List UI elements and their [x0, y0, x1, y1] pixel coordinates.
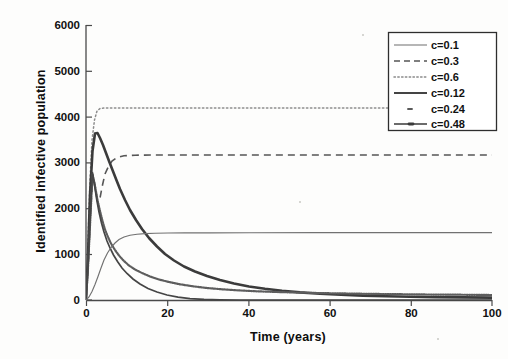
scan-speck — [362, 34, 364, 36]
legend-label-c-0-1: c=0.1 — [431, 39, 459, 51]
series-line-c-0-1 — [86, 233, 492, 300]
x-tick-100: 100 — [472, 307, 508, 319]
legend-label-c-0-6: c=0.6 — [431, 71, 459, 83]
y-axis-title: Identified infective population — [34, 36, 48, 286]
y-tick-5000: 5000 — [24, 65, 80, 77]
x-tick-60: 60 — [310, 307, 350, 319]
scan-speck — [437, 338, 439, 340]
y-tick-1000: 1000 — [24, 248, 80, 260]
y-tick-2000: 2000 — [24, 202, 80, 214]
legend-label-c-0-3: c=0.3 — [431, 55, 459, 67]
legend-label-c-0-24: c=0.24 — [431, 103, 466, 115]
x-tick-0: 0 — [67, 307, 107, 319]
legend-label-c-0-12: c=0.12 — [431, 87, 465, 99]
scan-speck — [299, 201, 301, 203]
y-tick-0: 0 — [24, 294, 80, 306]
x-axis-title: Time (years) — [86, 330, 490, 344]
x-tick-40: 40 — [229, 307, 269, 319]
legend-label-c-0-48: c=0.48 — [431, 118, 465, 130]
chart-figure: c=0.1 c=0.3 c=0.6 c=0.12 c=0.24 — [0, 0, 508, 359]
x-tick-20: 20 — [148, 307, 188, 319]
y-tick-3000: 3000 — [24, 156, 80, 168]
x-tick-80: 80 — [391, 307, 431, 319]
y-tick-6000: 6000 — [24, 19, 80, 31]
legend[interactable]: c=0.1 c=0.3 c=0.6 c=0.12 c=0.24 — [389, 33, 497, 131]
series-line-c-0-6 — [86, 108, 492, 300]
series-line-c-0-3 — [86, 155, 492, 300]
y-tick-4000: 4000 — [24, 111, 80, 123]
